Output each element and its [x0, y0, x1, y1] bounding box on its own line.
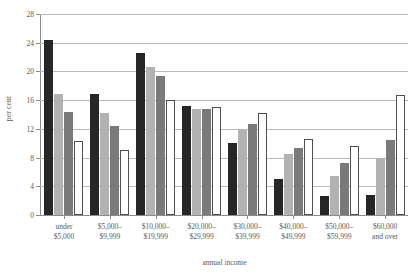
bar — [110, 126, 119, 215]
bar — [146, 67, 155, 215]
x-axis-category-label-line: $20,000– — [179, 222, 225, 232]
bar-group — [225, 14, 271, 215]
x-axis-category-label-line: $40,000– — [270, 222, 316, 232]
y-axis-tick-label: 24 — [27, 38, 35, 47]
x-axis-tick-mark — [247, 215, 248, 219]
bar — [74, 141, 83, 215]
bar — [340, 163, 349, 215]
x-axis-category-label-line: under — [41, 222, 87, 232]
y-axis-tick-mark — [36, 129, 40, 130]
x-axis-category-label: $5,000–$9,999 — [87, 222, 133, 242]
y-axis-tick-label: 12 — [27, 124, 35, 133]
x-axis-category-label-line: $50,000– — [316, 222, 362, 232]
x-axis-category-label: $30,000–$39,999 — [225, 222, 271, 242]
y-axis-tick-label: 16 — [27, 96, 35, 105]
y-axis-tick-mark — [36, 158, 40, 159]
bar-group — [133, 14, 179, 215]
bar — [228, 143, 237, 215]
x-axis-tick-mark — [64, 215, 65, 219]
x-axis-tick-mark — [202, 215, 203, 219]
bar-group — [179, 14, 225, 215]
bar-group — [270, 14, 316, 215]
bar — [396, 95, 405, 215]
x-axis-tick-mark — [110, 215, 111, 219]
bar — [366, 195, 375, 215]
bar — [100, 113, 109, 215]
bar — [376, 158, 385, 215]
bar-group — [87, 14, 133, 215]
x-axis-category-labels: under$5,000$5,000–$9,999$10,000–$19,999$… — [41, 222, 408, 242]
bar — [54, 94, 63, 215]
bar — [294, 148, 303, 215]
bar — [182, 106, 191, 215]
bar — [320, 196, 329, 215]
y-axis-tick-label: 20 — [27, 67, 35, 76]
y-axis-tick-mark — [36, 100, 40, 101]
x-axis-category-label: $40,000–$49,999 — [270, 222, 316, 242]
x-axis-category-label-line: $60,000 — [362, 222, 408, 232]
x-axis-tick-mark — [385, 215, 386, 219]
bar — [64, 112, 73, 215]
bar — [212, 107, 221, 215]
bar — [258, 113, 267, 215]
x-axis-category-label-line: $59,999 — [316, 232, 362, 242]
x-axis-tick-mark — [156, 215, 157, 219]
bar — [238, 130, 247, 215]
bar — [136, 53, 145, 215]
x-axis-category-label-line: $19,999 — [133, 232, 179, 242]
x-axis-category-label-line: $5,000 — [41, 232, 87, 242]
bar — [284, 154, 293, 215]
x-axis-label: annual income — [41, 258, 408, 267]
x-axis-category-label: $20,000–$29,999 — [179, 222, 225, 242]
bar — [248, 124, 257, 215]
y-axis-tick-mark — [36, 215, 40, 216]
plot-area: 0481216202428 — [40, 14, 408, 216]
x-axis-category-label-line: and over — [362, 232, 408, 242]
y-axis-tick-mark — [36, 43, 40, 44]
y-axis-tick-mark — [36, 14, 40, 15]
bar-chart: per cent 0481216202428 under$5,000$5,000… — [0, 0, 413, 273]
x-axis-category-label-line: $10,000– — [133, 222, 179, 232]
y-axis-tick-label: 0 — [30, 211, 34, 220]
bar — [166, 100, 175, 215]
x-axis-line — [40, 215, 408, 216]
bar — [330, 176, 339, 215]
y-axis-tick-label: 4 — [30, 182, 34, 191]
y-axis-label: per cent — [4, 79, 13, 139]
x-axis-category-label: $60,000and over — [362, 222, 408, 242]
bar — [202, 109, 211, 215]
y-axis-tick-label: 28 — [27, 10, 35, 19]
x-axis-category-label-line: $5,000– — [87, 222, 133, 232]
y-axis-tick-mark — [36, 71, 40, 72]
x-axis-category-label-line: $9,999 — [87, 232, 133, 242]
x-axis-tick-mark — [339, 215, 340, 219]
x-axis-category-label-line: $30,000– — [225, 222, 271, 232]
x-axis-category-label-line: $49,999 — [270, 232, 316, 242]
y-axis-tick-mark — [36, 186, 40, 187]
bar — [350, 146, 359, 215]
x-axis-category-label: under$5,000 — [41, 222, 87, 242]
bar-group — [41, 14, 87, 215]
bar — [120, 150, 129, 215]
bar — [274, 179, 283, 215]
y-axis-tick-label: 8 — [30, 153, 34, 162]
bar-group — [316, 14, 362, 215]
bar — [192, 109, 201, 215]
x-axis-category-label: $50,000–$59,999 — [316, 222, 362, 242]
bar — [44, 40, 53, 215]
x-axis-category-label-line: $29,999 — [179, 232, 225, 242]
bar — [386, 140, 395, 215]
x-axis-category-label: $10,000–$19,999 — [133, 222, 179, 242]
bar-group — [362, 14, 408, 215]
x-axis-category-label-line: $39,999 — [225, 232, 271, 242]
bar — [156, 76, 165, 215]
bar — [304, 139, 313, 215]
bar — [90, 94, 99, 215]
x-axis-tick-mark — [293, 215, 294, 219]
bar-groups — [41, 14, 408, 215]
